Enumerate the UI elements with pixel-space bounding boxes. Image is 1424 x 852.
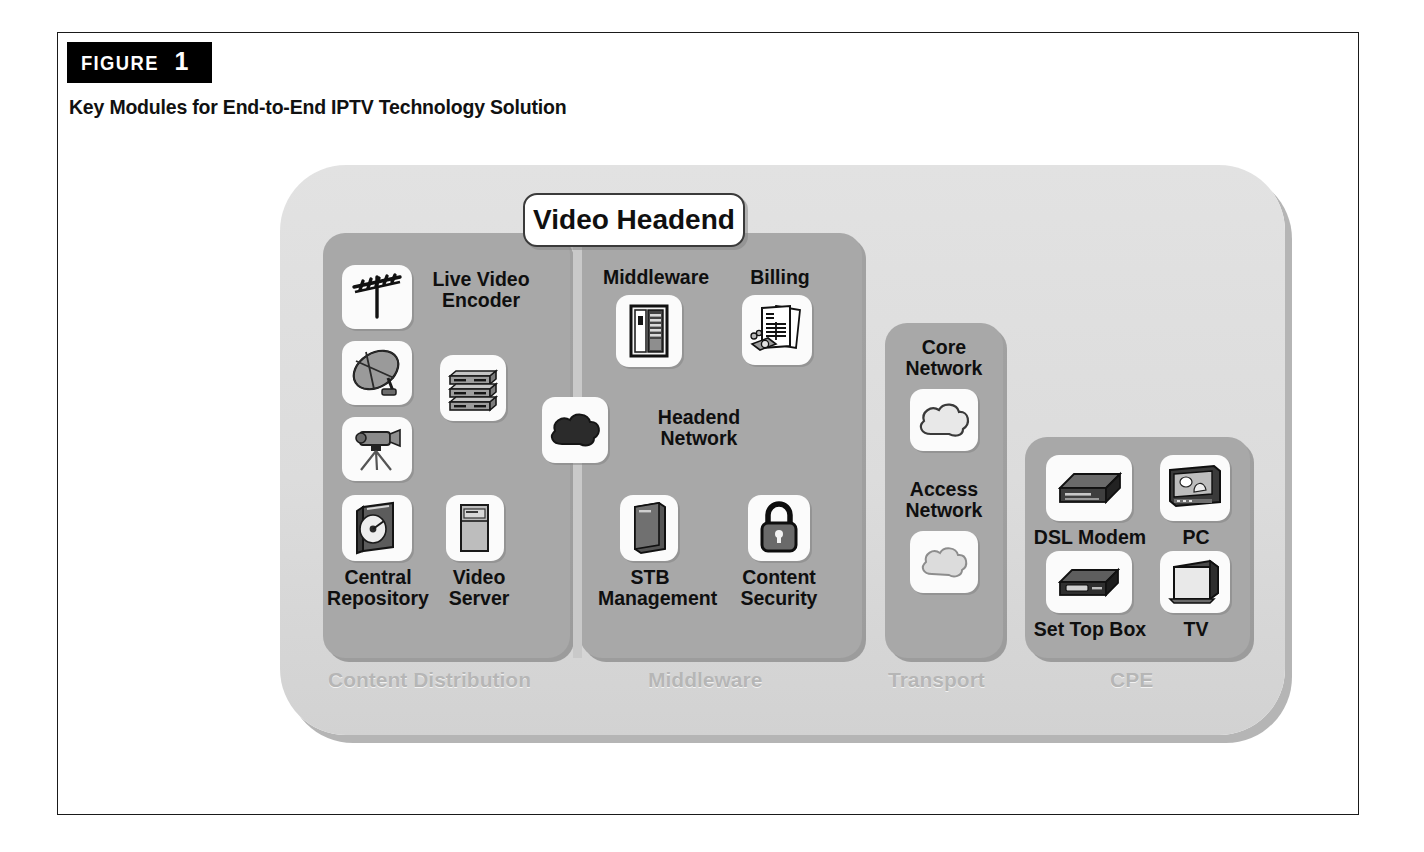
set-top-box-icon: [1046, 551, 1132, 613]
dsl-modem-label: DSL Modem: [1032, 527, 1148, 548]
video-camera-icon: [342, 417, 412, 481]
video-headend-badge-label: Video Headend: [533, 204, 735, 236]
figure-frame: FIGURE 1 Key Modules for End-to-End IPTV…: [57, 32, 1359, 815]
caption-cpe: CPE: [1110, 668, 1153, 692]
antenna-icon: [342, 265, 412, 329]
modem-icon: [1046, 455, 1132, 521]
caption-content-distribution: Content Distribution: [328, 668, 531, 692]
satellite-dish-icon: [342, 341, 412, 405]
core-network-label: Core Network: [891, 337, 997, 378]
middleware-cabinet-icon: [616, 295, 682, 367]
padlock-icon: [748, 495, 810, 561]
cloud-icon: [910, 531, 978, 593]
tv-label: TV: [1166, 619, 1226, 640]
figure-tag: FIGURE 1: [67, 42, 212, 83]
video-headend-badge: Video Headend: [523, 193, 745, 247]
set-top-box-label: Set Top Box: [1028, 619, 1152, 640]
stb-management-label: STB Management: [598, 567, 702, 608]
central-repository-label: Central Repository: [322, 567, 434, 608]
rack-servers-icon: [440, 355, 506, 421]
server-tower-icon: [446, 495, 504, 561]
desktop-computer-icon: [1160, 455, 1230, 521]
disc-storage-icon: [342, 495, 412, 561]
billing-label: Billing: [735, 267, 825, 288]
video-server-label: Video Server: [438, 567, 520, 608]
caption-transport: Transport: [888, 668, 985, 692]
figure-tag-number: 1: [175, 49, 189, 74]
access-network-label: Access Network: [891, 479, 997, 520]
dark-cloud-icon: [542, 397, 608, 463]
live-video-encoder-label: Live Video Encoder: [426, 269, 536, 310]
pc-label: PC: [1166, 527, 1226, 548]
middleware-node-label: Middleware: [596, 267, 716, 288]
server-tower-icon: [620, 495, 678, 561]
figure-tag-word: FIGURE: [81, 52, 159, 75]
cloud-icon: [910, 389, 978, 451]
diagram-canvas: Video Headend: [280, 165, 1285, 735]
content-security-label: Content Security: [724, 567, 834, 608]
invoice-money-icon: [742, 295, 812, 365]
figure-title: Key Modules for End-to-End IPTV Technolo…: [69, 95, 566, 119]
television-icon: [1160, 551, 1230, 613]
caption-middleware: Middleware: [648, 668, 762, 692]
headend-network-label: Headend Network: [624, 407, 774, 448]
